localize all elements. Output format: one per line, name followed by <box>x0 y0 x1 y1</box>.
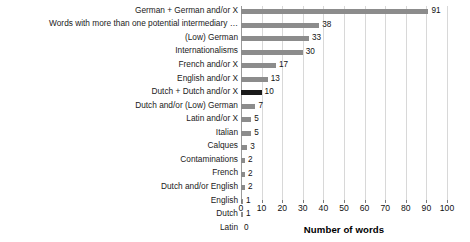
x-tick-label: 70 <box>380 203 390 214</box>
bar-value-label: 10 <box>265 86 274 97</box>
bar-value-label: 2 <box>248 168 253 179</box>
bar <box>241 63 276 68</box>
bar-row: 5 <box>241 128 447 142</box>
bar <box>241 117 251 122</box>
bar-row: 30 <box>241 47 447 61</box>
category-label-row: Latin <box>0 223 241 237</box>
bar-row: 2 <box>241 155 447 169</box>
category-label: English <box>3 195 241 206</box>
bar-value-label: 2 <box>248 154 253 165</box>
bar-row: 38 <box>241 20 447 34</box>
x-tick-label: 40 <box>319 203 329 214</box>
bar <box>241 9 428 14</box>
bar <box>241 23 319 28</box>
category-label: French <box>3 167 241 178</box>
bar-row: 5 <box>241 114 447 128</box>
bar-row: 33 <box>241 33 447 47</box>
bar-row: 2 <box>241 169 447 183</box>
bar-value-label: 33 <box>312 32 321 43</box>
category-label: (Low) German <box>3 32 241 43</box>
x-tick-label: 50 <box>339 203 349 214</box>
bar-row: 7 <box>241 101 447 115</box>
x-axis-title: Number of words <box>241 224 447 235</box>
bar-value-label: 30 <box>306 46 315 57</box>
bar-value-label: 2 <box>248 181 253 192</box>
x-tick-label: 20 <box>277 203 287 214</box>
bar-value-label: 5 <box>254 113 259 124</box>
bar-value-label: 5 <box>254 127 259 138</box>
bar <box>241 185 245 190</box>
bar <box>241 77 268 82</box>
category-label: Latin and/or X <box>3 113 241 124</box>
bar-value-label: 13 <box>271 73 280 84</box>
category-labels-column: German + German and/or XWords with more … <box>0 6 241 200</box>
bar <box>241 145 247 150</box>
x-axis: 0102030405060708090100 <box>241 200 447 214</box>
bar-value-label: 38 <box>322 19 331 30</box>
bar <box>241 158 245 163</box>
bar <box>241 172 245 177</box>
bar-value-label: 91 <box>431 5 440 16</box>
bar-row: 2 <box>241 182 447 196</box>
category-label: Contaminations <box>3 154 241 165</box>
bar <box>241 131 251 136</box>
x-tick-label: 30 <box>298 203 308 214</box>
bar-value-label: 17 <box>279 59 288 70</box>
bar-row: 3 <box>241 142 447 156</box>
bar <box>241 36 309 41</box>
category-label: Words with more than one potential inter… <box>3 18 241 29</box>
bar-row: 17 <box>241 60 447 74</box>
bar-row: 13 <box>241 74 447 88</box>
x-tick-label: 100 <box>440 203 454 214</box>
x-tick-label: 0 <box>239 203 244 214</box>
gridline-100 <box>447 6 448 200</box>
bar-value-label: 3 <box>250 141 255 152</box>
bar <box>241 50 303 55</box>
category-label: Internationalisms <box>3 45 241 56</box>
bar-chart: German + German and/or XWords with more … <box>0 0 470 242</box>
x-tick-label: 60 <box>360 203 370 214</box>
category-label: Italian <box>3 127 241 138</box>
bar <box>241 90 262 95</box>
category-label: Dutch <box>3 208 241 219</box>
category-label: Latin <box>3 222 241 233</box>
category-label: Dutch and/or (Low) German <box>3 100 241 111</box>
plot-area: 913833301713107553222110 <box>241 6 447 200</box>
x-tick-label: 80 <box>401 203 411 214</box>
category-label: Dutch + Dutch and/or X <box>3 86 241 97</box>
category-label: German + German and/or X <box>3 5 241 16</box>
bar-value-label: 7 <box>258 100 263 111</box>
x-tick-label: 10 <box>257 203 267 214</box>
bar-row: 91 <box>241 6 447 20</box>
category-label: French and/or X <box>3 59 241 70</box>
category-label: Dutch and/or English <box>3 181 241 192</box>
x-tick-label: 90 <box>422 203 432 214</box>
category-label: English and/or X <box>3 73 241 84</box>
bar-row: 10 <box>241 87 447 101</box>
category-label: Calques <box>3 140 241 151</box>
bar <box>241 104 255 109</box>
